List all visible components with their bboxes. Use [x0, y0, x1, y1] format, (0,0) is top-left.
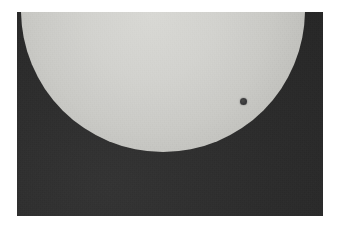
photo-page	[0, 0, 339, 233]
transiting-planet-silhouette	[240, 98, 247, 105]
photograph-frame	[17, 12, 323, 216]
